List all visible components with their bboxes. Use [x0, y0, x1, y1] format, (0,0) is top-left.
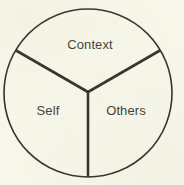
divider-upper-left: [16, 50, 88, 92]
figure-root: Context Self Others: [0, 0, 184, 185]
sector-label-others: Others: [106, 104, 146, 117]
divider-upper-right: [88, 50, 160, 92]
three-sector-circle-diagram: [0, 0, 184, 185]
sector-label-context: Context: [67, 38, 113, 51]
sector-label-self: Self: [37, 104, 60, 117]
